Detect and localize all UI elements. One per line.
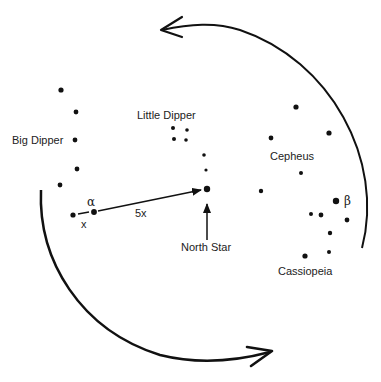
star <box>345 218 350 223</box>
beta-label: β <box>344 194 351 208</box>
star <box>73 138 78 143</box>
star <box>327 250 331 254</box>
star-beta <box>333 198 339 204</box>
north-star <box>204 186 210 192</box>
star <box>302 253 307 258</box>
cassiopeia-label: Cassiopeia <box>278 265 333 277</box>
star <box>328 231 332 235</box>
star <box>171 126 175 130</box>
little-dipper-label: Little Dipper <box>137 109 196 121</box>
star <box>319 213 324 218</box>
star <box>326 130 331 135</box>
star <box>299 171 303 175</box>
star <box>172 137 176 141</box>
star <box>58 87 63 92</box>
x-label: x <box>81 218 87 230</box>
star <box>58 183 63 188</box>
little-dipper-constellation: Little Dipper <box>137 109 208 172</box>
star-chart-diagram: Big Dipper x α 5x Little Dipper North St… <box>0 0 381 382</box>
rotation-arc-top <box>161 17 367 248</box>
north-star-label: North Star <box>181 241 231 253</box>
star <box>259 189 263 193</box>
star <box>184 138 188 142</box>
cepheus-constellation: Cepheus <box>259 104 332 193</box>
star-alpha <box>91 209 97 215</box>
x-distance-line <box>78 212 89 214</box>
star <box>309 212 313 216</box>
star <box>293 104 298 109</box>
star <box>204 168 207 171</box>
star-x-end <box>70 212 75 217</box>
star <box>75 167 80 172</box>
star <box>269 136 274 141</box>
big-dipper-constellation: Big Dipper <box>12 87 97 217</box>
five-x-label: 5x <box>135 207 147 219</box>
star <box>202 153 206 157</box>
star-chart-svg: Big Dipper x α 5x Little Dipper North St… <box>0 0 381 382</box>
alpha-label: α <box>87 195 95 209</box>
pointer-arrow-5x <box>98 190 201 211</box>
cassiopeia-constellation: β Cassiopeia <box>278 194 351 277</box>
star <box>74 110 79 115</box>
cepheus-label: Cepheus <box>270 150 315 162</box>
rotation-arc-bottom <box>41 190 272 366</box>
star <box>185 128 189 132</box>
big-dipper-label: Big Dipper <box>12 134 64 146</box>
